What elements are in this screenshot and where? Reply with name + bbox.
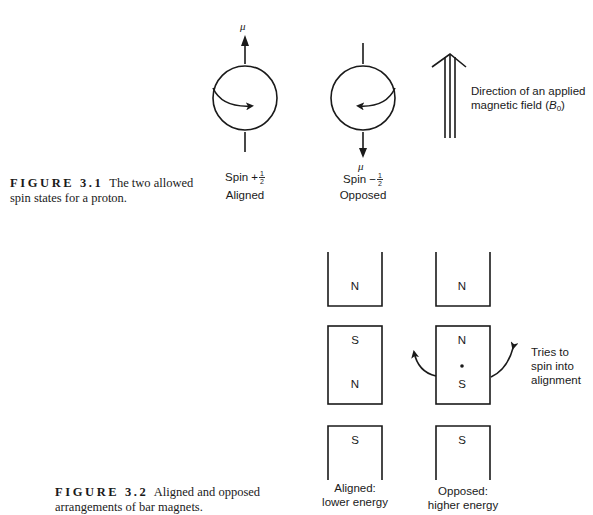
aligned-label: Aligned	[200, 188, 290, 202]
opposed-middle-top-pole: N	[452, 334, 472, 346]
mu-label-down: μ	[358, 160, 364, 172]
spin-down-label: Spin −12	[318, 172, 408, 187]
opposed-middle-bottom-pole: S	[452, 378, 472, 390]
figure-number: FIGURE 3.2	[55, 485, 148, 499]
mu-label-up: μ	[240, 20, 246, 32]
aligned-middle-top-pole: S	[345, 334, 365, 346]
rotation-arrow-right	[491, 348, 513, 377]
aligned-middle-bottom-pole: N	[345, 378, 365, 390]
proton-spin-down-diagram	[331, 43, 395, 158]
proton-spin-up-diagram	[213, 35, 277, 152]
applied-field-label: Direction of an applied magnetic field (…	[471, 84, 585, 116]
figure-3-2-caption: FIGURE 3.2 Aligned and opposed arrangeme…	[55, 485, 325, 515]
figure-number: FIGURE 3.1	[10, 176, 103, 190]
opposed-bottom-pole: S	[452, 434, 472, 446]
rotation-note: Tries to spin into alignment	[531, 345, 581, 387]
opposed-top-pole: N	[452, 280, 472, 292]
aligned-energy-label: Aligned: lower energy	[315, 481, 395, 509]
one-half-fraction: 12	[259, 170, 265, 185]
figure-3-1-caption: FIGURE 3.1 The two allowed spin states f…	[10, 176, 210, 206]
pivot-dot	[460, 364, 464, 368]
one-half-fraction: 12	[377, 172, 383, 187]
spin-up-label: Spin +12	[200, 170, 290, 185]
rotation-arrow-left	[414, 352, 436, 376]
aligned-top-pole: N	[345, 280, 365, 292]
opposed-label: Opposed	[318, 188, 408, 202]
aligned-bottom-pole: S	[345, 434, 365, 446]
applied-field-arrow	[432, 54, 466, 138]
opposed-energy-label: Opposed: higher energy	[420, 484, 506, 512]
